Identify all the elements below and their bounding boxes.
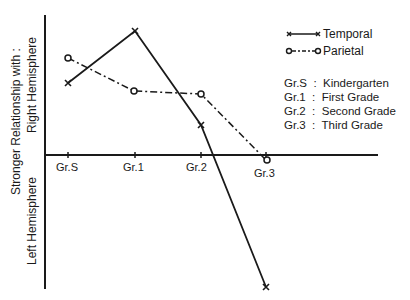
temporal-line: [68, 31, 266, 287]
legend-temporal-label: Temporal: [323, 27, 372, 41]
key-gr2: Gr.2 : Second Grade: [284, 105, 396, 117]
key-gr3: Gr.3 : Third Grade: [284, 119, 383, 131]
y-axis-label-right: Right Hemisphere: [25, 37, 39, 133]
legend-parietal-label: Parietal: [323, 44, 364, 58]
legend-temporal: Temporal: [287, 27, 372, 41]
y-axis-label-main: Stronger Relationship with :: [9, 48, 23, 195]
tick-label-grs: Gr.S: [56, 161, 78, 173]
grade-key: Gr.S : Kindergarten Gr.1 : First Grade G…: [284, 77, 396, 131]
tick-label-gr3: Gr.3: [254, 167, 275, 179]
y-axis-label-left: Left Hemisphere: [25, 177, 39, 265]
key-grs: Gr.S : Kindergarten: [284, 77, 389, 89]
legend: Temporal Parietal: [287, 27, 373, 58]
chart: Gr.S Gr.1 Gr.2 Gr.3 Stronger Relationshi…: [0, 0, 410, 300]
temporal-markers: [65, 28, 269, 290]
legend-parietal: Parietal: [287, 44, 364, 58]
parietal-line: [68, 58, 266, 160]
key-gr1: Gr.1 : First Grade: [284, 91, 379, 103]
tick-label-gr2: Gr.2: [186, 161, 207, 173]
tick-label-gr1: Gr.1: [123, 161, 144, 173]
